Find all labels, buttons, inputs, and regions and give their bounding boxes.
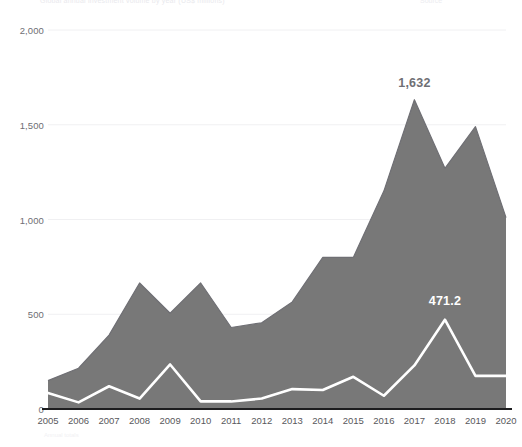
x-axis-tick: 2007 [98, 415, 119, 426]
plot-area [48, 30, 506, 409]
peak-sub-label: 471.2 [429, 294, 461, 308]
x-axis-tick: 2006 [68, 415, 89, 426]
x-axis-labels: 2005200620072008200920102011201220132014… [48, 415, 506, 431]
x-axis-tick: 2010 [190, 415, 211, 426]
x-axis-tick: 2017 [404, 415, 425, 426]
chart-footer-note: Annual totals [44, 432, 79, 438]
x-axis-tick: 2011 [221, 415, 241, 426]
total-area-series [48, 100, 506, 409]
y-axis-labels: 05001,0001,5002,000 [0, 0, 44, 447]
chart-source-label: Source [420, 0, 442, 4]
chart-svg [48, 30, 506, 409]
x-axis-tick: 2005 [37, 415, 58, 426]
x-axis-tick: 2015 [343, 415, 364, 426]
x-axis-tick: 2009 [160, 415, 181, 426]
x-axis-tick: 2016 [373, 415, 394, 426]
x-axis-tick: 2020 [495, 415, 516, 426]
y-axis-tick: 2,000 [4, 25, 44, 36]
x-axis-tick: 2014 [312, 415, 333, 426]
peak-total-label: 1,632 [398, 76, 430, 90]
y-axis-tick: 1,500 [4, 119, 44, 130]
chart-title: Global annual investment volume by year … [40, 0, 225, 4]
x-axis-tick: 2012 [251, 415, 272, 426]
x-axis-tick: 2019 [465, 415, 486, 426]
y-axis-tick: 1,000 [4, 214, 44, 225]
y-axis-tick: 0 [4, 404, 44, 415]
y-axis-tick: 500 [4, 309, 44, 320]
x-axis-tick: 2013 [282, 415, 303, 426]
x-axis-tick: 2008 [129, 415, 150, 426]
x-axis-tick: 2018 [434, 415, 455, 426]
chart-root: Global annual investment volume by year … [0, 0, 522, 447]
